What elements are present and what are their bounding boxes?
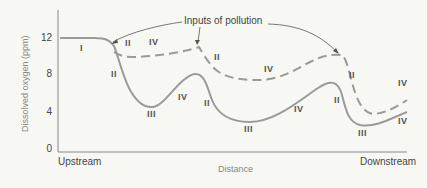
y-tick-12: 12 [38, 32, 52, 43]
upstream-label: Upstream [58, 156, 101, 167]
zone-label: II [204, 98, 210, 108]
y-tick-8: 8 [38, 68, 52, 79]
zone-label: II [349, 70, 355, 80]
y-axis-label: Dissolved oxygen (ppm) [20, 35, 30, 132]
x-axis-label: Distance [218, 164, 253, 174]
pollution-arrow-1 [113, 22, 182, 42]
solid-curve [60, 38, 407, 126]
zone-label: IV [264, 64, 274, 74]
y-tick-0: 0 [38, 143, 52, 154]
zone-label: IV [398, 78, 408, 88]
annotation-inputs-of-pollution: Inputs of pollution [184, 15, 262, 26]
zone-label: II [334, 95, 340, 105]
arrowhead-1 [111, 39, 118, 44]
y-tick-4: 4 [38, 106, 52, 117]
dashed-curve [114, 47, 407, 114]
zone-label: III [358, 128, 367, 138]
zone-label: III [244, 124, 253, 134]
zone-label: IV [398, 116, 408, 126]
zone-label: II [214, 52, 220, 62]
zone-label: IV [294, 104, 304, 114]
pollution-arrow-3 [268, 24, 337, 52]
zone-label: III [147, 109, 156, 119]
zone-label: IV [149, 37, 159, 47]
zone-label: II [111, 69, 117, 79]
zone-label: II [125, 38, 131, 48]
zone-label: I [80, 43, 83, 53]
downstream-label: Downstream [360, 156, 416, 167]
pollution-arrow-2 [198, 27, 200, 42]
zone-label: IV [178, 92, 188, 102]
arrowhead-2 [195, 40, 200, 45]
